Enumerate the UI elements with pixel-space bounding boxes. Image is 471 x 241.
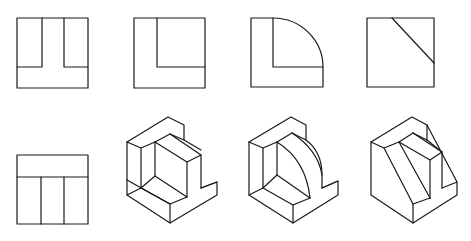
iso-1 <box>127 117 217 223</box>
view-1 <box>17 18 88 88</box>
view-4 <box>367 18 434 87</box>
iso-3 <box>371 117 457 223</box>
figure-canvas <box>0 0 471 241</box>
drawing-svg <box>0 0 471 241</box>
view-2 <box>134 18 205 88</box>
figure-caption <box>150 226 350 240</box>
view-3 <box>251 18 323 87</box>
iso-2 <box>249 117 338 223</box>
view-5 <box>17 155 88 224</box>
